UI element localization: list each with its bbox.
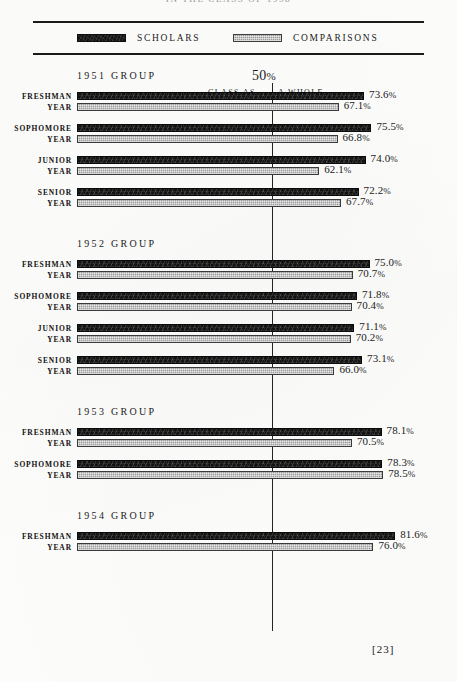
bar-fill [77, 356, 362, 364]
bar-value-number: 62.1 [324, 163, 344, 175]
bar-value-number: 67.7 [346, 195, 366, 207]
bar-value-comparisons: 70.5% [357, 435, 384, 447]
chart-row-pair: FRESHMANYEAR73.6%67.1% [0, 92, 457, 114]
bar-scholars [77, 260, 370, 268]
bar-track: 71.1%70.2% [77, 324, 457, 346]
bar-fill [77, 543, 373, 551]
bar-track: 75.5%66.8% [77, 124, 457, 146]
row-label-line2: YEAR [0, 166, 72, 177]
bar-comparisons [77, 471, 383, 479]
chart-plot-area: 50% CLASS AS A WHOLE 1951 GROUPFRESHMANY… [0, 62, 457, 632]
percent-sign: % [377, 269, 385, 279]
bar-value-number: 76.0 [378, 539, 398, 551]
percent-sign: % [376, 301, 384, 311]
chart-row-pair: SENIORYEAR73.1%66.0% [0, 356, 457, 378]
bar-value-comparisons: 67.1% [344, 99, 371, 111]
row-label: JUNIORYEAR [0, 323, 72, 345]
bar-fill [77, 324, 354, 332]
bar-comparisons [77, 543, 373, 551]
percent-sign: % [383, 186, 391, 196]
row-label: SENIORYEAR [0, 355, 72, 377]
row-label-line2: YEAR [0, 438, 72, 449]
row-label: SENIORYEAR [0, 187, 72, 209]
legend-label-comparisons: COMPARISONS [293, 33, 378, 43]
row-label-line1: JUNIOR [38, 156, 72, 165]
bar-value-comparisons: 66.0% [339, 363, 366, 375]
bar-track: 71.8%70.4% [77, 292, 457, 314]
bar-value-scholars: 75.5% [376, 120, 403, 132]
bar-track: 75.0%70.7% [77, 260, 457, 282]
percent-sign: % [408, 469, 416, 479]
running-title: IN THE CLASS OF 1958 [0, 0, 457, 5]
row-label-line1: SENIOR [38, 356, 72, 365]
bar-value-number: 70.7 [358, 267, 378, 279]
bar-comparisons [77, 167, 319, 175]
bar-scholars [77, 92, 364, 100]
legend-swatch-comparisons [233, 34, 282, 42]
bar-value-number: 70.5 [357, 435, 377, 447]
bar-comparisons [77, 367, 334, 375]
bar-fill [77, 156, 366, 164]
bar-track: 73.1%66.0% [77, 356, 457, 378]
bar-fill [77, 271, 353, 279]
percent-sign: % [406, 426, 414, 436]
row-label: FRESHMANYEAR [0, 427, 72, 449]
bar-fill [77, 471, 383, 479]
group-heading: 1951 GROUP [77, 70, 156, 81]
row-label: SOPHOMOREYEAR [0, 291, 72, 313]
percent-sign: % [389, 90, 397, 100]
bar-comparisons [77, 335, 351, 343]
bar-value-number: 70.4 [357, 299, 377, 311]
percent-sign: % [362, 133, 370, 143]
bar-value-comparisons: 66.8% [343, 131, 370, 143]
bar-fill [77, 124, 371, 132]
bar-value-scholars: 73.1% [367, 352, 394, 364]
bar-value-comparisons: 70.7% [358, 267, 385, 279]
chart-row-pair: JUNIORYEAR74.0%62.1% [0, 156, 457, 178]
percent-sign: % [366, 197, 374, 207]
bar-fill [77, 460, 382, 468]
bar-fill [77, 103, 339, 111]
bar-scholars [77, 188, 359, 196]
chart-legend: SCHOLARS COMPARISONS [33, 29, 424, 47]
bar-comparisons [77, 135, 338, 143]
row-label-line1: FRESHMAN [22, 260, 72, 269]
percent-sign: % [359, 365, 367, 375]
legend-label-scholars: SCHOLARS [137, 33, 200, 43]
bar-value-scholars: 74.0% [371, 152, 398, 164]
bar-value-number: 78.5 [388, 467, 408, 479]
page-number: [23] [372, 643, 394, 655]
bar-comparisons [77, 103, 339, 111]
rule-below-legend [33, 53, 424, 55]
bar-scholars [77, 460, 382, 468]
bar-fill [77, 92, 364, 100]
bar-fill [77, 367, 334, 375]
percent-sign: % [375, 333, 383, 343]
bar-value-number: 73.6 [369, 88, 389, 100]
row-label: SOPHOMOREYEAR [0, 459, 72, 481]
percent-sign: % [396, 122, 404, 132]
bar-fill [77, 292, 357, 300]
row-label-line2: YEAR [0, 542, 72, 553]
bar-scholars [77, 324, 354, 332]
bar-track: 81.6%76.0% [77, 532, 457, 554]
percent-sign: % [420, 530, 428, 540]
bar-fill [77, 532, 395, 540]
chart-row-pair: JUNIORYEAR71.1%70.2% [0, 324, 457, 346]
group-heading: 1953 GROUP [77, 406, 156, 417]
bar-value-comparisons: 67.7% [346, 195, 373, 207]
bar-value-scholars: 78.1% [387, 424, 414, 436]
bar-scholars [77, 156, 366, 164]
row-label: FRESHMANYEAR [0, 91, 72, 113]
bar-value-scholars: 73.6% [369, 88, 396, 100]
percent-sign: % [363, 101, 371, 111]
chart-row-pair: SOPHOMOREYEAR71.8%70.4% [0, 292, 457, 314]
row-label-line1: SENIOR [38, 188, 72, 197]
chart-row-pair: SOPHOMOREYEAR75.5%66.8% [0, 124, 457, 146]
row-label: SOPHOMOREYEAR [0, 123, 72, 145]
reference-percent-sign: % [266, 70, 275, 82]
bar-value-number: 73.1 [367, 352, 387, 364]
row-label-line2: YEAR [0, 470, 72, 481]
bar-comparisons [77, 439, 352, 447]
legend-entry-comparisons: COMPARISONS [233, 29, 378, 47]
